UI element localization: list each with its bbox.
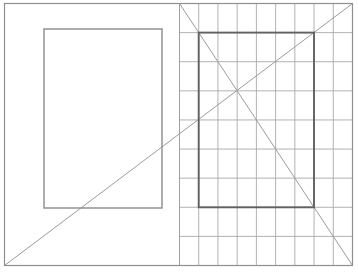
grid-transfer-construction-diagram bbox=[0, 0, 358, 277]
main-diagonal bbox=[5, 4, 353, 266]
scanned-diagram-page bbox=[0, 0, 358, 277]
right-half-diagonal bbox=[180, 4, 353, 266]
left-inner-rectangle bbox=[44, 29, 162, 208]
